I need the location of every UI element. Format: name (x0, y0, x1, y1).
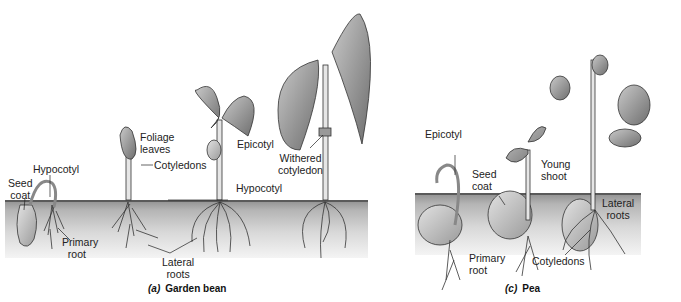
caption-pea: (c)Pea (505, 283, 540, 294)
label-lateral-roots-bean: Lateralroots (162, 256, 194, 280)
label-hypocotyl-bean-2: Hypocotyl (236, 182, 282, 194)
label-primary-root-pea: Primaryroot (469, 252, 505, 276)
caption-text-a: Garden bean (165, 283, 226, 294)
label-lateral-roots-pea: Lateralroots (602, 197, 634, 221)
caption-garden-bean: (a)Garden bean (148, 283, 226, 294)
label-foliage-leaves: Foliageleaves (140, 131, 174, 155)
label-epicotyl-pea: Epicotyl (425, 128, 462, 140)
label-primary-root-bean: Primary root (62, 236, 98, 260)
label-seed-coat-bean: Seedcoat (8, 177, 33, 201)
label-cotyledons-bean: Cotyledons (154, 159, 207, 171)
caption-letter-c: (c) (505, 283, 517, 294)
bean-stage-4 (278, 14, 371, 258)
label-withered-cotyledon: Witheredcotyledon (278, 152, 323, 176)
caption-letter-a: (a) (148, 283, 160, 294)
label-hypocotyl-bean-1: Hypocotyl (33, 163, 79, 175)
pea-stage-1 (418, 165, 462, 290)
label-seed-coat-pea: Seedcoat (472, 168, 497, 192)
label-cotyledons-pea: Cotyledons (532, 255, 585, 267)
label-epicotyl-bean: Epicotyl (237, 138, 274, 150)
caption-text-c: Pea (522, 283, 540, 294)
label-young-shoot: Youngshoot (541, 158, 570, 182)
